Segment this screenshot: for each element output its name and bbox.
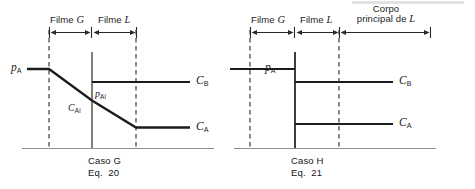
region-label-filme-l: Filme L — [300, 15, 332, 26]
label-cb: CB — [399, 75, 412, 87]
label-pa-bulk: pA — [265, 62, 276, 74]
region-arrow-filme-l — [297, 27, 340, 38]
region-label-filme-g: Filme G — [251, 15, 285, 26]
caption-caso-g: Caso GEq. 20 — [88, 155, 121, 178]
label-pa-bulk: pA — [11, 62, 22, 74]
label-cai-interface: CAi — [68, 103, 81, 113]
figure-root: pA pAi CAi CB CA Filme G Filme L Caso GE… — [0, 0, 475, 189]
panel-caso-h: pA CB CA Filme G Filme L Corpo principal… — [238, 0, 475, 189]
region-arrow-filme-g — [50, 27, 92, 38]
panel-caso-g: pA pAi CAi CB CA Filme G Filme L Caso GE… — [0, 0, 237, 189]
label-ca: CA — [196, 121, 209, 133]
region-label-filme-g: Filme G — [50, 15, 84, 26]
label-ca: CA — [399, 117, 412, 129]
panel-h-canvas — [238, 0, 475, 189]
label-cb: CB — [196, 75, 209, 87]
profile-curve-pa-ca — [27, 69, 190, 128]
label-pai-interface: pAi — [95, 89, 106, 99]
caption-caso-h: Caso HEq. 21 — [291, 155, 324, 178]
region-label-corpo-principal: Corpo principal de L — [343, 4, 429, 24]
region-arrow-corpo-principal — [341, 27, 431, 38]
region-arrow-filme-l — [94, 27, 137, 38]
region-label-filme-l: Filme L — [98, 15, 130, 26]
region-arrow-filme-g — [251, 27, 295, 38]
